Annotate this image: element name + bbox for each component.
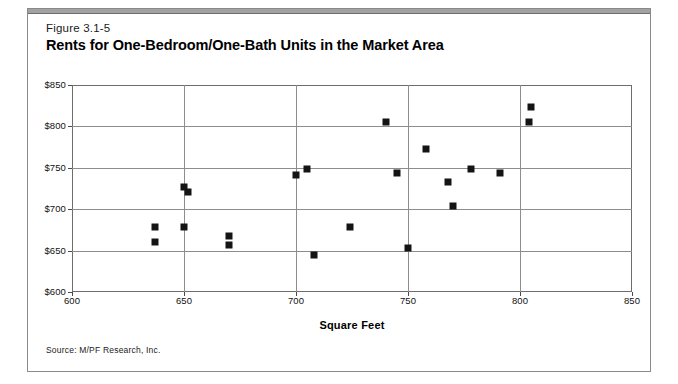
y-axis-tick-labels: $600$650$700$750$800$850 [26,85,66,292]
data-point [310,251,317,258]
figure-number: Figure 3.1-5 [46,22,110,34]
gridline-horizontal [72,126,632,127]
y-axis-tick-label: $600 [44,286,66,297]
data-point [528,104,535,111]
data-point [151,224,158,231]
data-point [151,239,158,246]
data-point [496,169,503,176]
data-point [382,119,389,126]
plot-frame [72,85,632,292]
x-axis-tick-label: 750 [400,295,416,306]
data-point [393,169,400,176]
y-axis-tick-label: $750 [44,162,66,173]
data-point [225,241,232,248]
gridline-vertical [408,85,409,292]
gridline-horizontal [72,168,632,169]
data-point [422,145,429,152]
scatter-chart: $600$650$700$750$800$850 600650700750800… [72,85,632,292]
data-point [293,172,300,179]
x-axis-title: Square Feet [72,319,632,331]
y-axis-tick-mark [68,85,72,86]
y-axis-tick-mark [68,168,72,169]
source-note: Source: M/PF Research, Inc. [46,345,161,355]
data-point [185,188,192,195]
x-axis-tick-label: 600 [64,295,80,306]
data-point [225,232,232,239]
y-axis-tick-mark [68,209,72,210]
data-point [467,165,474,172]
data-point [449,202,456,209]
page-title: Rents for One-Bedroom/One-Bath Units in … [46,37,444,53]
y-axis-tick-mark [68,126,72,127]
gridline-vertical [296,85,297,292]
gridline-horizontal [72,209,632,210]
y-axis-tick-label: $800 [44,120,66,131]
gridline-horizontal [72,251,632,252]
figure-card: Figure 3.1-5 Rents for One-Bedroom/One-B… [27,8,651,372]
x-axis-tick-labels: 600650700750800850 [72,295,632,311]
x-axis-tick-label: 800 [512,295,528,306]
top-rule-divider [28,9,650,14]
data-point [405,245,412,252]
y-axis-tick-label: $850 [44,79,66,90]
y-axis-tick-label: $650 [44,245,66,256]
gridline-vertical [520,85,521,292]
x-axis-tick-label: 850 [624,295,640,306]
data-point [525,119,532,126]
data-point [445,178,452,185]
data-point [304,165,311,172]
data-point [346,224,353,231]
data-point [181,224,188,231]
y-axis-tick-label: $700 [44,203,66,214]
y-axis-tick-mark [68,251,72,252]
x-axis-tick-label: 650 [176,295,192,306]
x-axis-tick-label: 700 [288,295,304,306]
